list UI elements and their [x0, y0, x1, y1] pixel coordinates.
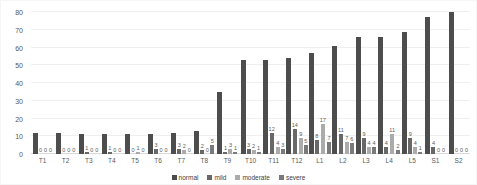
value-label: 0 — [49, 147, 52, 153]
moderate-bar — [413, 147, 417, 154]
moderate-bar — [136, 152, 140, 154]
y-tick-label-40: 40 — [5, 80, 23, 87]
bar-T5-normal — [125, 12, 130, 154]
bar-S2-severe: 0 — [465, 12, 469, 154]
bar-T8-severe: 5 — [210, 12, 214, 154]
value-label: 3 — [155, 142, 158, 148]
mild-bar — [315, 140, 319, 154]
bar-T12-mild: 14 — [292, 12, 298, 154]
mild-bar — [85, 152, 89, 154]
normal-bar — [378, 37, 383, 154]
severe-bar — [350, 143, 354, 154]
category-label-L5: L5 — [401, 157, 424, 164]
bar-group-L2: 1176 — [331, 12, 354, 154]
bar-L2-normal — [332, 12, 337, 154]
bar-T10-severe: 1 — [257, 12, 261, 154]
normal-bar — [79, 134, 84, 154]
bar-T7-mild: 3 — [177, 12, 181, 154]
legend-swatch-severe — [279, 175, 284, 180]
category-label-T3: T3 — [77, 157, 100, 164]
normal-bar — [286, 58, 291, 154]
value-label: 0 — [188, 147, 191, 153]
value-label: 6 — [350, 136, 353, 142]
value-label: 0 — [160, 147, 163, 153]
bar-T6-mild: 3 — [154, 12, 158, 154]
bar-group-S1: 400 — [424, 12, 447, 154]
bar-T10-normal — [241, 12, 246, 154]
bar-T1-mild: 0 — [39, 12, 43, 154]
bar-T8-moderate: 0 — [205, 12, 209, 154]
mild-bar — [154, 149, 158, 154]
bar-T11-severe: 3 — [281, 12, 285, 154]
moderate-bar — [367, 147, 371, 154]
bar-T9-normal — [217, 12, 222, 154]
moderate-bar — [252, 150, 256, 154]
bar-L4-normal — [378, 12, 383, 154]
bar-T10-moderate: 2 — [252, 12, 256, 154]
bar-group-T2: 000 — [54, 12, 77, 154]
value-label: 1 — [85, 145, 88, 151]
value-label: 14 — [292, 122, 298, 128]
y-tick-label-50: 50 — [5, 62, 23, 69]
bar-T11-moderate: 4 — [276, 12, 280, 154]
category-label-L2: L2 — [331, 157, 354, 164]
bar-T11-normal — [263, 12, 268, 154]
value-label: 0 — [118, 147, 121, 153]
value-label: 3 — [281, 142, 284, 148]
value-label: 4 — [385, 140, 388, 146]
bar-L3-mild: 9 — [362, 12, 366, 154]
bar-T3-normal — [79, 12, 84, 154]
mild-bar — [339, 134, 343, 154]
normal-bar — [217, 92, 222, 154]
bar-T8-mild: 2 — [200, 12, 204, 154]
bar-group-T9: 131 — [216, 12, 239, 154]
mild-bar — [408, 138, 412, 154]
legend-swatch-mild — [207, 175, 212, 180]
value-label: 0 — [165, 147, 168, 153]
bar-group-T8: 205 — [193, 12, 216, 154]
normal-bar — [241, 60, 246, 154]
bar-L3-severe: 4 — [372, 12, 376, 154]
value-label: 3 — [229, 142, 232, 148]
mild-bar — [247, 149, 251, 154]
mild-bar — [384, 147, 388, 154]
normal-bar — [102, 134, 107, 154]
value-label: 1 — [108, 145, 111, 151]
severe-bar — [418, 152, 422, 154]
bar-S2-moderate: 0 — [460, 12, 464, 154]
bar-T12-normal — [286, 12, 291, 154]
bar-T6-normal — [148, 12, 153, 154]
bar-group-L4: 4112 — [378, 12, 401, 154]
bar-L4-moderate: 11 — [389, 12, 395, 154]
value-label: 1 — [136, 145, 139, 151]
category-label-T11: T11 — [262, 157, 285, 164]
moderate-bar — [276, 147, 280, 154]
category-label-S2: S2 — [447, 157, 470, 164]
mild-bar — [270, 133, 274, 154]
value-label: 0 — [62, 147, 65, 153]
category-label-T5: T5 — [123, 157, 146, 164]
plot-area: 0000001001000103003202051313211243149581… — [31, 12, 470, 154]
bar-chart: 0000001001000103003202051313211243149581… — [0, 0, 477, 185]
bar-T7-severe: 0 — [187, 12, 191, 154]
category-label-T6: T6 — [147, 157, 170, 164]
moderate-bar — [345, 142, 349, 154]
value-label: 4 — [276, 140, 279, 146]
bar-L4-severe: 2 — [396, 12, 400, 154]
value-label: 9 — [299, 131, 302, 137]
bar-L5-mild: 9 — [408, 12, 412, 154]
normal-bar — [309, 53, 314, 154]
value-label: 5 — [304, 138, 307, 144]
bar-group-T7: 320 — [170, 12, 193, 154]
value-label: 11 — [338, 127, 344, 133]
value-label: 1 — [234, 145, 237, 151]
normal-bar — [449, 12, 454, 154]
legend-label-normal: normal — [179, 174, 199, 181]
bar-T2-mild: 0 — [62, 12, 66, 154]
bar-L2-severe: 6 — [350, 12, 354, 154]
value-label: 9 — [363, 131, 366, 137]
value-label: 12 — [269, 126, 275, 132]
moderate-bar — [228, 149, 232, 154]
bar-L1-moderate: 17 — [320, 12, 326, 154]
value-label: 0 — [141, 147, 144, 153]
